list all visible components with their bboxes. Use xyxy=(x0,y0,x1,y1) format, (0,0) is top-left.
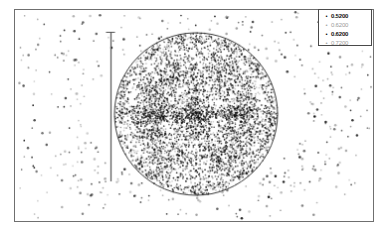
legend-marker-icon: • xyxy=(322,12,331,20)
legend-item-label: 0.7200 xyxy=(331,39,348,47)
legend-item-label: 0.5200 xyxy=(331,12,348,20)
legend-item[interactable]: • 0.6200 xyxy=(322,21,369,29)
legend-marker-icon: • xyxy=(322,30,331,38)
legend-item-label: 0.6200 xyxy=(331,30,348,38)
legend-marker-icon: • xyxy=(322,21,331,29)
legend-item[interactable]: • 0.6200 xyxy=(322,30,369,38)
legend-item[interactable]: • 0.7200 xyxy=(322,39,369,47)
chart-legend: • 0.5200 • 0.6200 • 0.6200 • 0.7200 xyxy=(318,9,372,46)
legend-item[interactable]: • 0.5200 xyxy=(322,12,369,20)
legend-marker-icon: • xyxy=(322,39,331,47)
legend-item-label: 0.6200 xyxy=(331,21,348,29)
chart-figure: • 0.5200 • 0.6200 • 0.6200 • 0.7200 xyxy=(0,0,387,242)
